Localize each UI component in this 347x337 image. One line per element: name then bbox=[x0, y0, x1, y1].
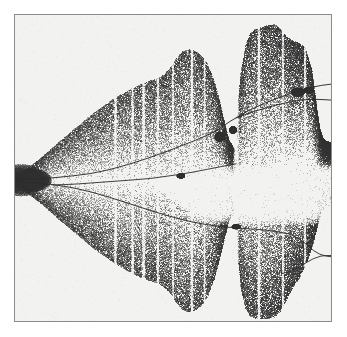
plot-frame bbox=[14, 14, 332, 322]
bifurcation-plot-canvas bbox=[15, 15, 331, 321]
bifurcation-figure bbox=[0, 0, 347, 337]
